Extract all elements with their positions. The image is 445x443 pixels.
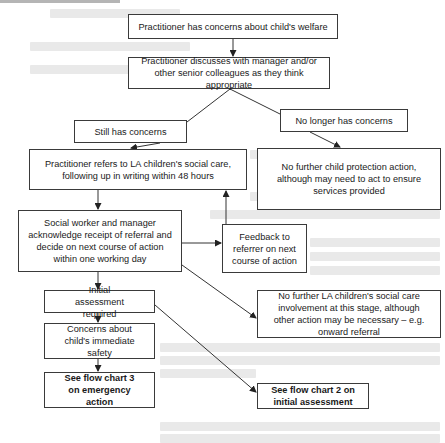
node-label: See flow chart 3 on emergency action — [59, 372, 140, 408]
arrow-n4-n6 — [310, 132, 340, 147]
node-social-worker-acknowledge: Social worker and manager acknowledge re… — [18, 210, 182, 272]
node-initial-assessment-required: Initial assessment required — [44, 290, 155, 313]
node-still-has-concerns: Still has concerns — [74, 120, 187, 143]
node-practitioner-discusses: Practitioner discusses with manager and/… — [128, 57, 330, 89]
node-label: Initial assessment required — [63, 284, 136, 320]
node-refers-to-social-care: Practitioner refers to LA children's soc… — [29, 149, 247, 190]
node-label: Feedback to referrer on next course of a… — [229, 231, 300, 267]
line-n2-n3 — [187, 89, 230, 122]
node-practitioner-concerns: Practitioner has concerns about child's … — [128, 14, 338, 39]
node-label: Practitioner has concerns about child's … — [138, 21, 327, 33]
node-label: No further LA children's social care inv… — [268, 290, 430, 338]
node-label: Social worker and manager acknowledge re… — [25, 217, 175, 265]
node-label: No longer has concerns — [295, 115, 392, 127]
arrow-n3-n5 — [131, 143, 160, 148]
node-label: Still has concerns — [94, 126, 166, 138]
node-label: Practitioner discusses with manager and/… — [132, 55, 326, 91]
line-n2-n4 — [230, 89, 282, 115]
node-see-flow-chart-3: See flow chart 3 on emergency action — [44, 372, 155, 408]
node-immediate-safety-concerns: Concerns about child's immediate safety — [44, 323, 155, 359]
node-label: No further child protection action, alth… — [272, 161, 426, 197]
node-see-flow-chart-2: See flow chart 2 on initial assessment — [257, 383, 369, 409]
node-no-further-protection-action: No further child protection action, alth… — [257, 148, 441, 210]
node-no-further-la-involvement: No further LA children's social care inv… — [257, 290, 441, 338]
node-label: Concerns about child's immediate safety — [55, 323, 144, 359]
node-label: Practitioner refers to LA children's soc… — [44, 158, 232, 182]
node-no-longer-has-concerns: No longer has concerns — [280, 109, 408, 132]
node-feedback-to-referrer: Feedback to referrer on next course of a… — [222, 224, 307, 273]
arrow-n9-n13 — [155, 305, 256, 392]
node-label: See flow chart 2 on initial assessment — [261, 384, 365, 408]
